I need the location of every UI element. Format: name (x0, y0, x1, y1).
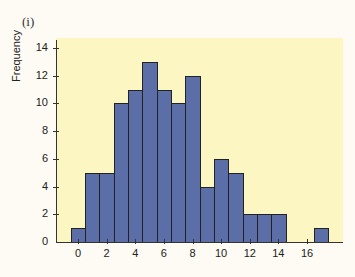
histogram-bar (85, 173, 100, 243)
y-tick-label: 10 (28, 96, 48, 108)
histogram-bar (157, 90, 172, 243)
y-tick-label: 2 (28, 207, 48, 219)
y-axis-label: Frequency (10, 26, 22, 86)
histogram-bar (171, 103, 186, 243)
histogram-bar (185, 76, 200, 243)
x-axis-line (56, 242, 343, 243)
histogram-bar (99, 173, 114, 243)
x-tick-label: 0 (68, 247, 88, 259)
histogram-bar (314, 228, 329, 243)
x-tick-label: 2 (97, 247, 117, 259)
histogram-bar (128, 90, 143, 243)
y-tick-label: 0 (28, 235, 48, 247)
x-tick-label: 14 (268, 247, 288, 259)
y-tick-label: 14 (28, 41, 48, 53)
y-tick-label: 12 (28, 69, 48, 81)
histogram-bar (200, 187, 215, 243)
histogram-bar (257, 214, 272, 243)
histogram-bar (214, 159, 229, 243)
y-axis-line (56, 40, 57, 243)
x-tick-label: 4 (125, 247, 145, 259)
histogram-bar (114, 103, 129, 243)
y-tick-label: 8 (28, 124, 48, 136)
y-tick-label: 4 (28, 180, 48, 192)
panel-label: (i) (22, 14, 34, 30)
histogram-bar (228, 173, 243, 243)
histogram-bar (142, 62, 157, 243)
x-tick-label: 8 (183, 247, 203, 259)
x-tick-label: 16 (297, 247, 317, 259)
y-tick-label: 6 (28, 152, 48, 164)
x-tick-label: 10 (211, 247, 231, 259)
x-tick-label: 6 (154, 247, 174, 259)
x-tick-label: 12 (240, 247, 260, 259)
